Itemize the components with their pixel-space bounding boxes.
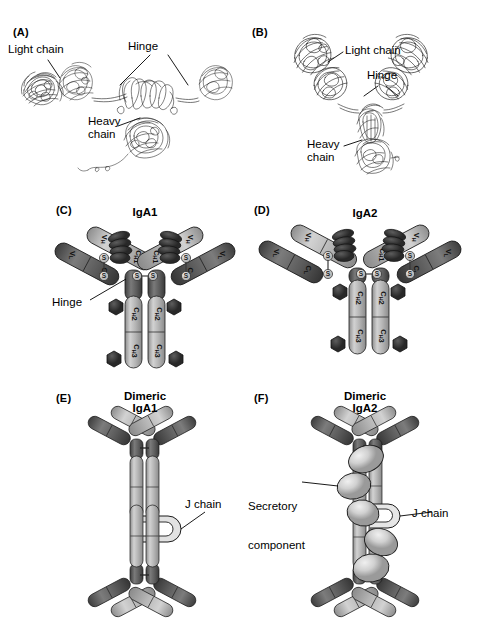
panel-e-dimeric-iga1-schematic: [40, 382, 250, 641]
svg-text:S: S: [135, 272, 140, 279]
panel-b-hinge-label: Hinge: [367, 69, 397, 82]
panel-b: (B) Light chain Hinge Heavy chain: [240, 0, 480, 195]
panel-d-title: IgA2: [315, 207, 415, 219]
panel-a-hinge-label: Hinge: [128, 40, 158, 53]
svg-text:S: S: [359, 270, 364, 277]
svg-text:S: S: [408, 252, 413, 259]
figure-immunoglobulin-a-structures: (A) Light chain Hinge Heavy chain: [0, 0, 480, 641]
panel-c: (C) IgA1 Hinge: [40, 196, 250, 381]
svg-text:S: S: [102, 272, 107, 279]
svg-text:S: S: [408, 270, 413, 277]
panel-f-secretory-line2: component: [248, 539, 305, 552]
panel-c-title: IgA1: [95, 206, 195, 218]
panel-e: (E) Dimeric IgA1 J chain: [40, 382, 250, 641]
panel-d-iga2-schematic: VL CL VH CH1: [240, 196, 480, 381]
panel-e-title: Dimeric IgA1: [95, 390, 195, 414]
panel-a-ribbon-diagram: [0, 0, 240, 195]
panel-e-bottom-monomer: [86, 505, 198, 619]
panel-d-left-stem: CH2 CH3: [349, 280, 366, 354]
panel-b-ribbon-diagram: [240, 0, 480, 195]
panel-b-light-chain-label: Light chain: [345, 44, 401, 57]
panel-e-label: (E): [56, 392, 71, 404]
panel-a: (A) Light chain Hinge Heavy chain: [0, 0, 240, 195]
panel-f-secretory-line1: Secretory: [248, 500, 305, 513]
panel-e-top-monomer: [86, 404, 198, 518]
panel-a-light-chain-label: Light chain: [8, 43, 64, 56]
panel-d-o-glycans-right: [382, 227, 407, 261]
panel-e-j-chain-label: J chain: [185, 498, 221, 511]
panel-e-j-chain-leader: [181, 512, 205, 529]
panel-f-label: (F): [254, 392, 269, 404]
svg-text:S: S: [151, 272, 156, 279]
panel-c-left-stem: CH2 CH3: [125, 296, 142, 368]
svg-text:S: S: [326, 252, 331, 259]
panel-f: (F) Dimeric IgA2 Secretory component J c…: [240, 382, 480, 641]
panel-d-carbohydrate-hexagons: [331, 284, 407, 352]
panel-c-hinge-label: Hinge: [52, 296, 82, 309]
secretory-domain-2: [335, 470, 374, 503]
panel-d-label: (D): [254, 204, 270, 216]
panel-e-title-line1: Dimeric: [95, 390, 195, 402]
panel-b-label: (B): [252, 26, 268, 38]
svg-text:S: S: [375, 270, 380, 277]
svg-text:S: S: [102, 254, 107, 261]
panel-c-iga1-schematic: VL CL VH CH1: [40, 196, 250, 381]
svg-text:S: S: [184, 272, 189, 279]
panel-d: (D) IgA2 VL CL VH: [240, 196, 480, 381]
panel-d-right-stem: CH2 CH3: [372, 280, 389, 354]
panel-c-label: (C): [56, 204, 72, 216]
svg-text:S: S: [326, 270, 331, 277]
panel-f-title-line2: IgA2: [310, 402, 420, 414]
panel-e-title-line2: IgA1: [95, 402, 195, 414]
panel-d-o-glycans-left: [331, 227, 356, 261]
panel-f-secretory-leader: [302, 482, 338, 486]
svg-text:S: S: [184, 254, 189, 261]
panel-a-heavy-chain-label: Heavy chain: [88, 115, 121, 141]
panel-b-heavy-chain-label: Heavy chain: [307, 138, 340, 164]
panel-f-title: Dimeric IgA2: [310, 390, 420, 414]
panel-c-carbohydrate-hexagons: [107, 299, 183, 367]
panel-f-j-chain-label: J chain: [412, 507, 448, 520]
panel-a-label: (A): [13, 26, 29, 38]
panel-f-secretory-component-label: Secretory component: [248, 474, 305, 578]
panel-f-title-line1: Dimeric: [310, 390, 420, 402]
panel-c-right-stem: CH2 CH3: [148, 296, 165, 368]
